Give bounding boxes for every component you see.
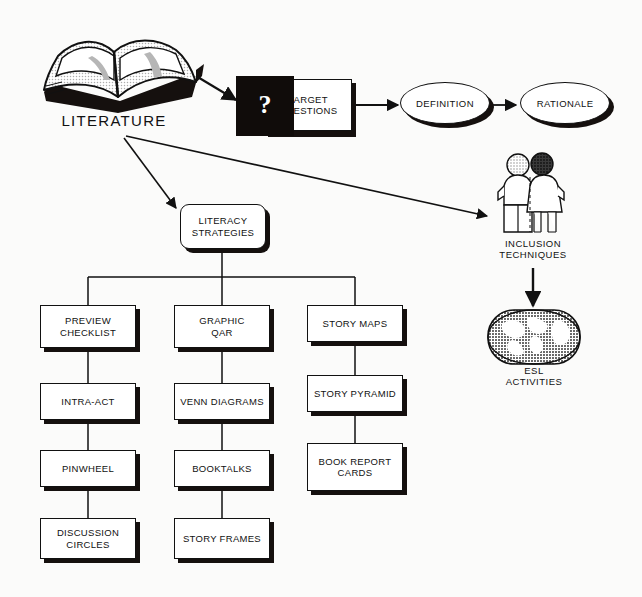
node-line-1: STORY FRAMES [180,533,264,544]
diagram-canvas: LITERATURE ? TARGET QUESTIONS DEFINITION… [0,0,642,597]
node-line-1: DISCUSSION [57,527,119,538]
node-story-maps[interactable]: STORY MAPS [307,305,403,342]
node-rationale[interactable]: RATIONALE [520,82,610,124]
node-line-2: QAR [211,327,233,338]
question-mark-badge: ? [236,76,294,136]
label-line-2: TECHNIQUES [499,249,566,260]
arrow-literature-to-strategies [124,138,176,208]
node-label: DEFINITION [416,98,474,109]
node-line-1: PREVIEW [65,315,111,326]
node-story-pyramid[interactable]: STORY PYRAMID [307,375,403,412]
node-booktalks[interactable]: BOOKTALKS [174,450,270,487]
node-line-1: INTRA-ACT [58,396,117,407]
node-line-1: GRAPHIC [199,315,244,326]
node-line-1: BOOK REPORT [319,456,392,467]
node-line-1: STORY PYRAMID [311,388,399,399]
node-story-frames[interactable]: STORY FRAMES [174,518,270,559]
node-line-2: CHECKLIST [60,327,116,338]
node-intra-act[interactable]: INTRA-ACT [40,383,136,420]
two-people-icon [498,153,564,232]
label-line-1: ESL [524,365,543,376]
node-line-1: PINWHEEL [59,463,117,474]
node-book-report-cards[interactable]: BOOK REPORT CARDS [307,443,403,491]
esl-activities-label: ESL ACTIVITIES [484,365,584,388]
arrow-literature-to-questions [196,76,236,100]
node-pinwheel[interactable]: PINWHEEL [40,450,136,487]
node-definition[interactable]: DEFINITION [400,82,490,124]
arrow-literature-to-inclusion [126,136,487,216]
node-line-1: BOOKTALKS [189,463,255,474]
node-graphic-qar[interactable]: GRAPHIC QAR [174,305,270,348]
label-line-2: ACTIVITIES [506,376,563,387]
node-line-2: STRATEGIES [192,227,254,238]
node-preview-checklist[interactable]: PREVIEW CHECKLIST [40,305,136,348]
question-mark-glyph: ? [259,92,272,118]
globe-icon [488,310,580,364]
node-literacy-strategies[interactable]: LITERACY STRATEGIES [180,204,266,249]
open-book-icon [44,41,204,114]
node-line-2: CARDS [338,467,373,478]
inclusion-techniques-label: INCLUSION TECHNIQUES [483,238,583,261]
node-line-1: LITERACY [199,215,248,226]
label-line-1: INCLUSION [505,238,561,249]
node-line-1: VENN DIAGRAMS [177,396,267,407]
node-line-1: TARGET [288,94,328,105]
node-line-1: STORY MAPS [320,318,391,329]
node-venn-diagrams[interactable]: VENN DIAGRAMS [174,383,270,420]
node-line-2: CIRCLES [66,539,109,550]
node-label: RATIONALE [537,98,594,109]
literature-label: LITERATURE [24,112,204,130]
node-discussion-circles[interactable]: DISCUSSION CIRCLES [40,518,136,559]
